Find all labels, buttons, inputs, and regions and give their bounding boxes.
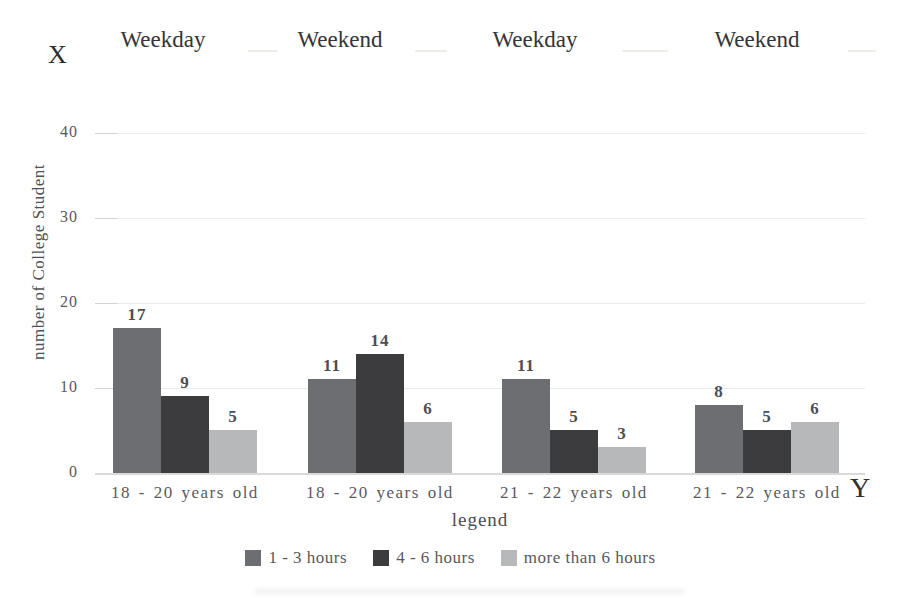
legend: 1 - 3 hours4 - 6 hoursmore than 6 hours xyxy=(0,548,901,568)
y-tick-label: 0 xyxy=(40,463,78,481)
legend-item: 4 - 6 hours xyxy=(373,548,475,568)
header-separator-line xyxy=(622,50,668,52)
legend-swatch xyxy=(501,550,517,566)
legend-swatch xyxy=(373,550,389,566)
bar-value-label: 14 xyxy=(356,331,404,351)
header-separator-line xyxy=(248,50,278,52)
bar xyxy=(356,354,404,473)
legend-item-label: 4 - 6 hours xyxy=(396,548,475,568)
bar-value-label: 8 xyxy=(695,382,743,402)
top-axis-label: Weekend xyxy=(298,27,383,53)
y-tick-label: 10 xyxy=(40,378,78,396)
y-tick-label: 30 xyxy=(40,208,78,226)
x-category-label: 21 - 22 years old xyxy=(693,483,841,503)
y-tick-mark xyxy=(95,218,117,219)
top-axis-label: Weekday xyxy=(121,27,206,53)
bar-value-label: 3 xyxy=(598,424,646,444)
bar-value-label: 11 xyxy=(308,356,356,376)
y-tick-mark xyxy=(95,133,117,134)
top-axis-label: Weekend xyxy=(715,27,800,53)
bar xyxy=(308,379,356,473)
x-corner-label: X xyxy=(48,40,67,70)
x-category-label: 18 - 20 years old xyxy=(111,483,259,503)
bar xyxy=(550,430,598,473)
gridline xyxy=(95,133,865,134)
y-tick-mark xyxy=(95,303,117,304)
legend-item: 1 - 3 hours xyxy=(245,548,347,568)
legend-title: legend xyxy=(60,509,900,531)
bar xyxy=(598,447,646,473)
header-separator-line xyxy=(415,50,447,52)
header-separator-line xyxy=(848,50,876,52)
bar-value-label: 9 xyxy=(161,373,209,393)
y-corner-label: Y xyxy=(850,472,870,504)
bar-value-label: 5 xyxy=(209,407,257,427)
gridline xyxy=(95,303,865,304)
bar xyxy=(404,422,452,473)
bar-value-label: 17 xyxy=(113,305,161,325)
bar-value-label: 11 xyxy=(502,356,550,376)
y-tick-label: 20 xyxy=(40,293,78,311)
x-category-label: 21 - 22 years old xyxy=(500,483,648,503)
bar xyxy=(791,422,839,473)
bar-value-label: 5 xyxy=(743,407,791,427)
scanned-bar-chart-figure: X Y number of College Student legend 1 -… xyxy=(0,0,901,598)
gridline xyxy=(95,218,865,219)
top-axis-label: Weekday xyxy=(493,27,578,53)
y-tick-label: 40 xyxy=(40,123,78,141)
y-axis-title: number of College Student xyxy=(29,164,49,360)
gridline xyxy=(95,388,865,389)
bar-value-label: 6 xyxy=(791,399,839,419)
bar xyxy=(209,430,257,473)
bar-value-label: 5 xyxy=(550,407,598,427)
x-axis-line xyxy=(95,473,865,475)
scan-artifact xyxy=(255,589,685,594)
legend-item-label: 1 - 3 hours xyxy=(268,548,347,568)
legend-swatch xyxy=(245,550,261,566)
bar xyxy=(113,328,161,473)
bar xyxy=(502,379,550,473)
legend-item-label: more than 6 hours xyxy=(524,548,656,568)
bar-value-label: 6 xyxy=(404,399,452,419)
x-category-label: 18 - 20 years old xyxy=(306,483,454,503)
legend-item: more than 6 hours xyxy=(501,548,656,568)
bar xyxy=(743,430,791,473)
bar xyxy=(695,405,743,473)
bar xyxy=(161,396,209,473)
